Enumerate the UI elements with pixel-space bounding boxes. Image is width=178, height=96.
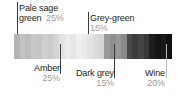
color-palette-infographic: Pale sage green 25% Grey-green 15% Amber…	[0, 0, 178, 96]
palette-stripe	[166, 34, 172, 59]
annotation-dark-grey: Dark grey 15%	[69, 66, 114, 86]
leader-line-wine	[166, 44, 167, 78]
color-name-pale-sage-green-cont: green	[19, 13, 42, 23]
percent-grey-green: 15%	[90, 23, 108, 33]
palette-proportion-bar	[14, 34, 172, 59]
annotation-pale-sage-green: Pale sage green 25%	[19, 1, 64, 21]
percent-amber: 25%	[42, 73, 60, 83]
percent-wine: 20%	[147, 78, 165, 88]
leader-line-dark-grey	[114, 44, 115, 78]
percent-pale-sage-green: 25%	[46, 13, 64, 23]
annotation-wine: Wine 20%	[125, 66, 165, 86]
leader-line-grey-green	[88, 12, 89, 34]
leader-line-pale-sage-green	[17, 2, 18, 34]
annotation-amber: Amber 25%	[18, 61, 60, 81]
leader-line-amber	[60, 44, 61, 74]
annotation-grey-green: Grey-green 15%	[90, 11, 135, 31]
percent-dark-grey: 15%	[96, 78, 114, 88]
